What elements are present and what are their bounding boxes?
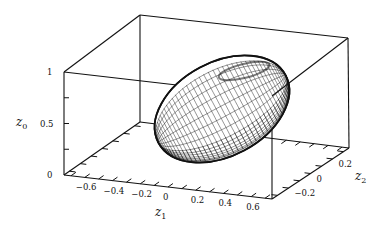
z1-tick [71,172,76,175]
z2-tick [338,151,344,152]
z0-tick-label: 1 [47,67,52,77]
z2-tick-left [80,164,86,165]
z1-tick [210,188,215,191]
z1-tick [85,174,90,177]
z1-tick [251,193,256,196]
z2-tick-left [135,126,141,127]
z1-tick-back [309,144,314,147]
z1-tick-label: 0 [163,192,168,202]
z1-tick [113,177,118,180]
z2-tick-left [102,149,108,150]
box-edge-top-left-depth [64,15,140,72]
z1-tick-back [337,147,342,150]
z1-tick [126,179,131,182]
box-edge-bottom-left-depth [64,122,140,175]
z1-tick [237,192,242,195]
z1-tick [168,184,173,187]
z1-tick [140,180,145,183]
z1-tick-label: −0.6 [76,182,97,192]
z0-tick-label: 0 [47,170,52,180]
ellipsoid-3d-plot: −0.6−0.4−0.200.20.40.6−0.200.200.51 z0 z… [0,0,389,230]
z1-tick [99,176,104,179]
z1-tick-back [323,145,328,148]
z2-tick-label: 0.2 [339,159,353,169]
z2-tick-label: −0.2 [295,188,316,198]
z1-tick [182,185,187,188]
z1-tick-label: 0.2 [191,195,205,205]
z1-tick-label: 0.6 [246,202,260,212]
z1-tick-back [295,142,300,145]
z0-axis-label: z0 [15,115,27,131]
z2-tick-left [113,141,119,142]
z1-tick [196,187,201,190]
z2-tick [272,195,278,196]
z1-tick-label: −0.4 [104,186,125,196]
z1-tick [154,182,159,185]
z1-axis-label: z1 [154,205,166,221]
z2-tick-left [91,156,97,157]
z1-tick [223,190,228,193]
z2-axis-label: z2 [354,169,366,185]
z2-tick [283,187,289,188]
z1-tick-label: −0.2 [131,189,152,199]
z2-tick [327,158,333,159]
z2-tick-label: 0 [317,174,322,184]
z2-tick-left [124,133,130,134]
z1-tick-back [281,140,286,143]
box-edge-top-right-depth [272,38,348,96]
z1-tick-label: 0.4 [218,198,232,208]
z2-tick [316,166,322,167]
box-edge-back-top [140,15,348,38]
z0-tick-label: 0.5 [40,119,54,129]
z2-tick [294,180,300,181]
z2-tick [305,173,311,174]
z1-tick [265,195,270,198]
z2-tick-left [69,171,75,172]
box-edge-back-right-vertical [348,38,349,148]
ellipsoid-surface [136,34,307,185]
